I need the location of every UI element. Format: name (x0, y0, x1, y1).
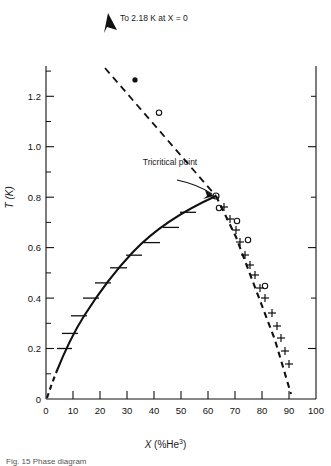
y-tick-label-4: 0.8 (28, 192, 41, 203)
lambda-annotation: To 2.18 K at X = 0 (120, 13, 188, 23)
x-tick-labels: 0 10 20 30 40 50 60 70 80 90 100 (43, 405, 324, 416)
lambda-annotation-text: To 2.18 K at X = 0 (120, 13, 188, 23)
x-axis-title-units: (%He3) (151, 439, 186, 450)
x-ticks (73, 391, 289, 399)
y-tick-label-5: 1.0 (28, 141, 41, 152)
phase-diagram: 0 0.2 0.4 0.6 0.8 1.0 1.2 0 10 20 30 40 … (0, 0, 331, 466)
coexistence-curve-left-dashed (47, 373, 56, 398)
y-axis-title: T (K) (4, 195, 15, 209)
x-tick-label-6: 60 (203, 405, 214, 416)
x-tick-label-0: 0 (43, 405, 48, 416)
x-tick-label-9: 90 (284, 405, 295, 416)
y-tick-label-3: 0.6 (28, 242, 41, 253)
x-tick-label-3: 30 (122, 405, 133, 416)
y-tick-label-2: 0.4 (28, 293, 41, 304)
x-tick-label-5: 50 (176, 405, 187, 416)
x-axis-title: X (%He3) (0, 438, 331, 450)
x-tick-label-2: 20 (95, 405, 106, 416)
y-tick-labels: 0 0.2 0.4 0.6 0.8 1.0 1.2 (28, 91, 41, 405)
open-circle-markers-right (216, 205, 267, 288)
coexistence-curve-right (216, 196, 291, 394)
coexistence-curve-left (56, 196, 216, 373)
data-point-filled-circle (132, 77, 137, 82)
y-tick-label-0: 0 (36, 394, 41, 405)
x-tick-label-10: 100 (308, 405, 324, 416)
y-minor-ticks (46, 71, 316, 374)
x-tick-label-7: 70 (230, 405, 241, 416)
lambda-line (105, 68, 216, 196)
x-tick-label-4: 40 (149, 405, 160, 416)
tricritical-annotation: Tricritical point (139, 158, 201, 168)
figure-caption: Fig. 15 Phase diagram (6, 457, 87, 466)
x-tick-label-1: 10 (68, 405, 79, 416)
x-tick-label-8: 80 (257, 405, 268, 416)
y-tick-label-1: 0.2 (28, 343, 41, 354)
axes (46, 66, 316, 399)
data-point-open-circle (156, 110, 161, 115)
y-tick-label-6: 1.2 (28, 91, 41, 102)
